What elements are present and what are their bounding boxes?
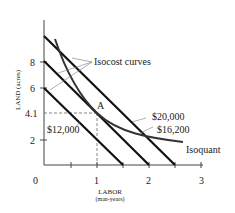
cost-20000-label: $20,000 [152,111,185,122]
point-a-label: A [97,100,105,111]
y-tick-6: 6 [30,83,35,94]
x-tick-3: 3 [199,175,204,186]
y-tick-4-1: 4.1 [25,108,38,119]
x-tick-0: 0 [33,175,38,186]
x-axis-title: LABOR [98,188,122,196]
cost-12000-label: $12,000 [47,124,80,135]
y-axis-title: LAND (acres) [14,69,22,110]
isocost-isoquant-chart: Isocost curves A $12,000 $20,000 $16,200… [0,0,235,213]
y-tick-8: 8 [30,57,35,68]
x-tick-1: 1 [94,175,99,186]
x-axis-subtitle: (man-years) [96,196,125,203]
isocost-leaders [50,58,153,134]
isoquant-label: Isoquant [186,144,221,155]
isocost-curves-label: Isocost curves [94,56,151,67]
cost-16200-label: $16,200 [157,124,190,135]
y-tick-2: 2 [30,135,35,146]
x-tick-2: 2 [146,175,151,186]
